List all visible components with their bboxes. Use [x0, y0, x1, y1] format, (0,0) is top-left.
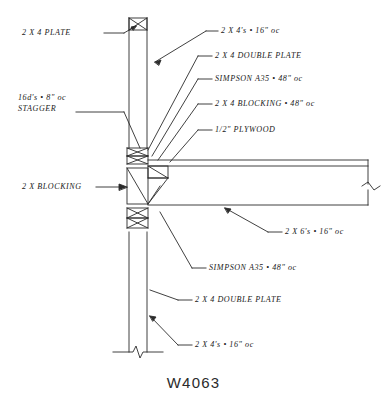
label-joists: 2 X 6's • 16" oc — [285, 227, 344, 238]
label-nailing-line2: STAGGER — [18, 104, 56, 115]
leader-simpson-top — [152, 79, 212, 156]
blocking-member — [127, 168, 148, 204]
label-studs-top: 2 X 4's • 16" oc — [221, 26, 280, 37]
label-nailing-line1: 16d's • 8" oc — [18, 93, 66, 104]
leader-blocking-left — [96, 184, 127, 190]
wall-stud-assembly — [129, 18, 147, 352]
leader-joists — [225, 208, 282, 232]
floor-joist-assembly — [148, 160, 368, 205]
label-top-plate: 2 X 4 PLATE — [22, 28, 71, 39]
a35-connector-lines — [148, 178, 168, 204]
label-plywood: 1/2" PLYWOOD — [215, 125, 275, 136]
upper-double-plate-block — [127, 148, 148, 164]
label-simpson-bottom: SIMPSON A35 • 48" oc — [209, 263, 297, 274]
rim-joist-block — [148, 166, 168, 178]
label-simpson-top: SIMPSON A35 • 48" oc — [215, 74, 303, 85]
drawing-sheet: 2 X 4 PLATE 16d's • 8" oc STAGGER 2 X BL… — [0, 0, 387, 410]
leader-top-plate — [104, 26, 136, 33]
drawing-title: W4063 — [0, 374, 387, 391]
lower-double-plate-block — [127, 208, 148, 228]
leader-nailing — [76, 112, 140, 148]
label-double-plate-top: 2 X 4 DOUBLE PLATE — [215, 51, 302, 62]
label-double-plate-bottom: 2 X 4 DOUBLE PLATE — [195, 295, 282, 306]
leader-double-plate-top — [148, 56, 212, 150]
label-studs-bottom: 2 X 4's • 16" oc — [195, 340, 254, 351]
leader-studs-top — [155, 31, 218, 65]
label-blocking-top: 2 X 4 BLOCKING • 48" oc — [215, 99, 315, 110]
label-blocking-left: 2 X BLOCKING — [22, 182, 82, 193]
leader-studs-bottom — [150, 316, 192, 345]
leader-double-plate-bottom — [150, 290, 192, 300]
break-symbol-wall — [113, 346, 163, 358]
detail-drawing — [0, 0, 387, 410]
break-symbol-floor — [362, 182, 380, 190]
leader-simpson-bottom — [160, 212, 206, 268]
